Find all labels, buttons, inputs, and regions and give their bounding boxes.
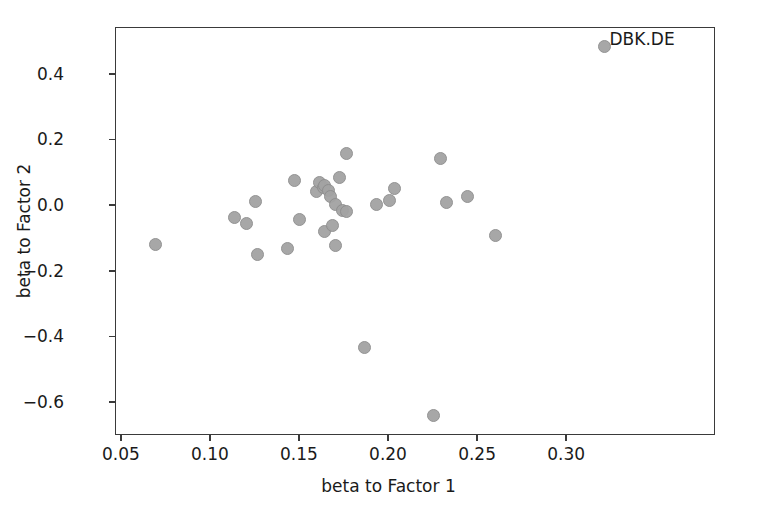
data-point[interactable]: [326, 219, 339, 232]
data-point[interactable]: [370, 198, 383, 211]
y-axis-tick-label: −0.4: [23, 326, 64, 346]
y-axis-tick: [109, 73, 115, 75]
x-axis-tick-label: 0.20: [369, 444, 407, 464]
data-point[interactable]: [358, 341, 371, 354]
y-axis-tick: [109, 401, 115, 403]
x-axis-tick: [120, 435, 122, 441]
data-point[interactable]: [388, 182, 401, 195]
data-point[interactable]: [329, 239, 342, 252]
data-point[interactable]: [440, 196, 453, 209]
y-axis-tick-label: −0.6: [23, 392, 64, 412]
y-axis-tick: [109, 139, 115, 141]
y-axis-tick-label: 0.2: [37, 129, 64, 149]
data-point[interactable]: [340, 205, 353, 218]
data-point[interactable]: [293, 213, 306, 226]
data-point-label: DBK.DE: [610, 31, 675, 48]
x-axis-tick-label: 0.05: [102, 444, 140, 464]
x-axis-label: beta to Factor 1: [0, 476, 777, 496]
data-point[interactable]: [333, 171, 346, 184]
x-axis-tick-label: 0.25: [458, 444, 496, 464]
data-point[interactable]: [340, 147, 353, 160]
data-point[interactable]: [249, 195, 262, 208]
data-point[interactable]: [240, 217, 253, 230]
data-point[interactable]: [288, 174, 301, 187]
data-point[interactable]: [281, 242, 294, 255]
x-axis-tick-label: 0.10: [191, 444, 229, 464]
x-axis-tick: [209, 435, 211, 441]
data-point[interactable]: [149, 238, 162, 251]
data-point[interactable]: [251, 248, 264, 261]
y-axis-tick: [109, 204, 115, 206]
x-axis-tick: [476, 435, 478, 441]
x-axis-tick-label: 0.30: [547, 444, 585, 464]
y-axis-tick-label: 0.4: [37, 64, 64, 84]
x-axis-tick: [565, 435, 567, 441]
x-axis-tick: [298, 435, 300, 441]
y-axis-tick: [109, 270, 115, 272]
plot-area: [115, 27, 715, 435]
y-axis-tick: [109, 336, 115, 338]
data-point[interactable]: [461, 190, 474, 203]
scatter-plot-figure: beta to Factor 1 beta to Factor 2 0.050.…: [0, 0, 777, 513]
x-axis-tick: [387, 435, 389, 441]
data-point[interactable]: [383, 194, 396, 207]
data-point[interactable]: [434, 152, 447, 165]
data-point[interactable]: [228, 211, 241, 224]
y-axis-tick-label: −0.2: [23, 261, 64, 281]
data-point[interactable]: [489, 229, 502, 242]
data-point[interactable]: [427, 409, 440, 422]
x-axis-tick-label: 0.15: [280, 444, 318, 464]
y-axis-tick-label: 0.0: [37, 195, 64, 215]
